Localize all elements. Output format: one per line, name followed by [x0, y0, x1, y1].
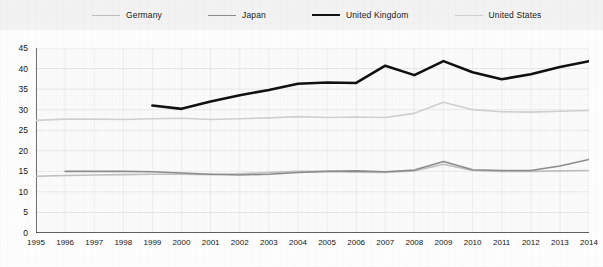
x-tick-label: 2010 — [464, 238, 482, 247]
legend-line-swatch-icon — [208, 15, 236, 16]
legend-item-japan[interactable]: Japan — [208, 10, 266, 20]
y-tick-label: 0 — [2, 228, 28, 238]
y-tick-label: 45 — [2, 43, 28, 53]
legend-line-swatch-icon — [312, 14, 340, 16]
y-tick-label: 15 — [2, 166, 28, 176]
x-tick-label: 2002 — [231, 238, 249, 247]
x-tick-label: 1996 — [56, 238, 74, 247]
line-chart: GermanyJapanUnited KingdomUnited States … — [0, 0, 603, 267]
x-tick-label: 2003 — [260, 238, 278, 247]
x-tick-label: 2000 — [173, 238, 191, 247]
legend-item-united-kingdom[interactable]: United Kingdom — [312, 10, 409, 20]
legend-line-swatch-icon — [92, 15, 120, 16]
series-line-united-states — [36, 102, 589, 120]
x-tick-label: 2004 — [289, 238, 307, 247]
legend-item-label: United States — [489, 10, 542, 20]
legend-item-label: Germany — [126, 10, 162, 20]
x-tick-label: 2008 — [405, 238, 423, 247]
legend-item-label: United Kingdom — [346, 10, 409, 20]
legend-line-swatch-icon — [455, 15, 483, 16]
x-tick-label: 1999 — [144, 238, 162, 247]
y-tick-label: 20 — [2, 146, 28, 156]
x-tick-label: 2005 — [318, 238, 336, 247]
legend-item-germany[interactable]: Germany — [92, 10, 162, 20]
y-tick-label: 10 — [2, 187, 28, 197]
legend-item-united-states[interactable]: United States — [455, 10, 542, 20]
x-tick-label: 2009 — [435, 238, 453, 247]
chart-legend: GermanyJapanUnited KingdomUnited States — [0, 0, 603, 30]
x-tick-label: 2013 — [551, 238, 569, 247]
plot-svg — [36, 48, 589, 233]
x-tick-label: 2007 — [376, 238, 394, 247]
y-tick-label: 25 — [2, 125, 28, 135]
x-tick-label: 2012 — [522, 238, 540, 247]
x-tick-label: 1998 — [114, 238, 132, 247]
x-tick-label: 2006 — [347, 238, 365, 247]
x-tick-label: 2001 — [202, 238, 220, 247]
y-tick-label: 30 — [2, 105, 28, 115]
y-tick-label: 35 — [2, 84, 28, 94]
x-tick-label: 2014 — [580, 238, 598, 247]
plot-area — [36, 48, 589, 233]
x-tick-label: 1995 — [27, 238, 45, 247]
legend-item-label: Japan — [242, 10, 266, 20]
x-tick-label: 1997 — [85, 238, 103, 247]
y-tick-label: 40 — [2, 64, 28, 74]
y-tick-label: 5 — [2, 207, 28, 217]
x-tick-label: 2011 — [493, 238, 510, 247]
